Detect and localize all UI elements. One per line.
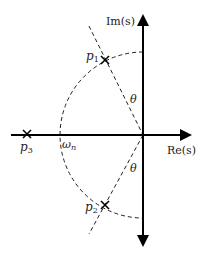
angle-theta-lower: θ	[130, 162, 137, 175]
natural-frequency-label: ωn	[62, 138, 76, 152]
pole-p2-marker	[101, 201, 109, 209]
real-axis-arrowhead	[180, 129, 192, 141]
pole-p2-label: p2	[85, 200, 98, 215]
damping-line-upper	[89, 26, 143, 135]
pole-p1-label: p1	[86, 49, 99, 64]
imaginary-axis-label: Im(s)	[106, 15, 135, 28]
imaginary-axis-arrowhead-down	[137, 235, 149, 247]
damping-line-lower	[89, 135, 143, 234]
imaginary-axis-arrowhead-up	[137, 14, 149, 26]
real-axis-label: Re(s)	[167, 144, 196, 157]
angle-theta-upper: θ	[130, 93, 137, 106]
s-plane-diagram: Im(s) Re(s) p1 p2 p3 θ θ ωn	[0, 0, 209, 261]
pole-p3-label: p3	[20, 140, 33, 155]
